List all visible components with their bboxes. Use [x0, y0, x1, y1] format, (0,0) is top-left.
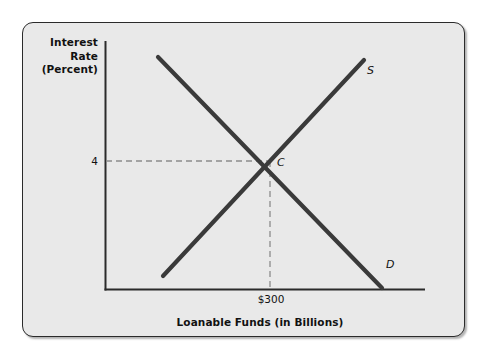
equilibrium-point-label: C: [277, 156, 285, 169]
demand-curve-label: D: [386, 258, 394, 271]
y-axis-title-line-2: Rate: [28, 50, 98, 64]
x-axis-tick-label-300: $300: [235, 293, 307, 305]
y-axis-title-line-1: Interest: [28, 36, 98, 50]
x-axis-title: Loanable Funds (in Billions): [120, 316, 400, 328]
y-axis-title-line-3: (Percent): [28, 63, 98, 77]
y-axis-title: Interest Rate (Percent): [28, 36, 98, 77]
supply-curve-label: S: [367, 64, 374, 77]
y-axis-tick-label-4: 4: [80, 155, 98, 167]
